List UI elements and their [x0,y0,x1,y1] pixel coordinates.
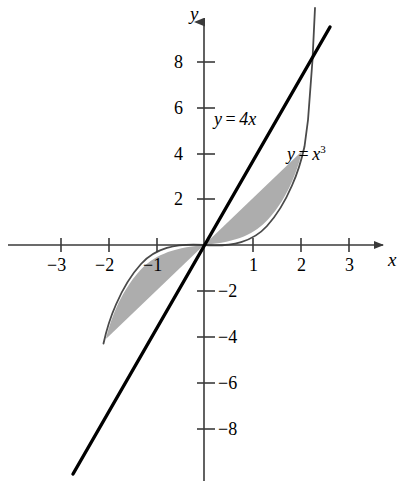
x-tick-label-1: 1 [249,256,258,274]
curve-annotation-cubic: y = x3 [287,145,326,163]
y-tick-label-minus-2: −2 [218,282,237,300]
y-tick-label-4: 4 [174,145,183,163]
y-tick-label-6: 6 [174,99,183,117]
x-tick-label-2: 2 [297,256,306,274]
figure-cubic-vs-line: y x 8 6 4 2 −2 −4 −6 −8 −3 −2 −1 1 2 3 y… [0,0,404,489]
x-axis-label: x [388,250,396,269]
curve-annotation-line-expr: 4x [239,109,256,129]
x-tick-label-3: 3 [345,256,354,274]
curve-annotation-cubic-equals: = [295,144,312,164]
curve-annotation-line: y = 4x [214,110,256,128]
y-tick-label-minus-8: −8 [218,420,237,438]
x-tick-label-minus-2: −2 [95,256,114,274]
x-tick-label-minus-1: −1 [143,256,162,274]
y-tick-label-2: 2 [174,190,183,208]
plot-canvas [0,0,404,489]
curve-annotation-line-equals: = [222,109,239,129]
y-tick-label-minus-6: −6 [218,374,237,392]
x-tick-label-minus-3: −3 [47,256,66,274]
y-tick-label-minus-4: −4 [218,328,237,346]
curve-annotation-cubic-y: y [287,144,295,164]
curve-annotation-line-y: y [214,109,222,129]
curve-annotation-cubic-exponent: 3 [320,143,326,155]
shaded-region-upper-right [204,151,302,245]
y-axis-label: y [190,4,198,23]
y-tick-label-8: 8 [174,53,183,71]
curve-line-4x [73,27,330,474]
